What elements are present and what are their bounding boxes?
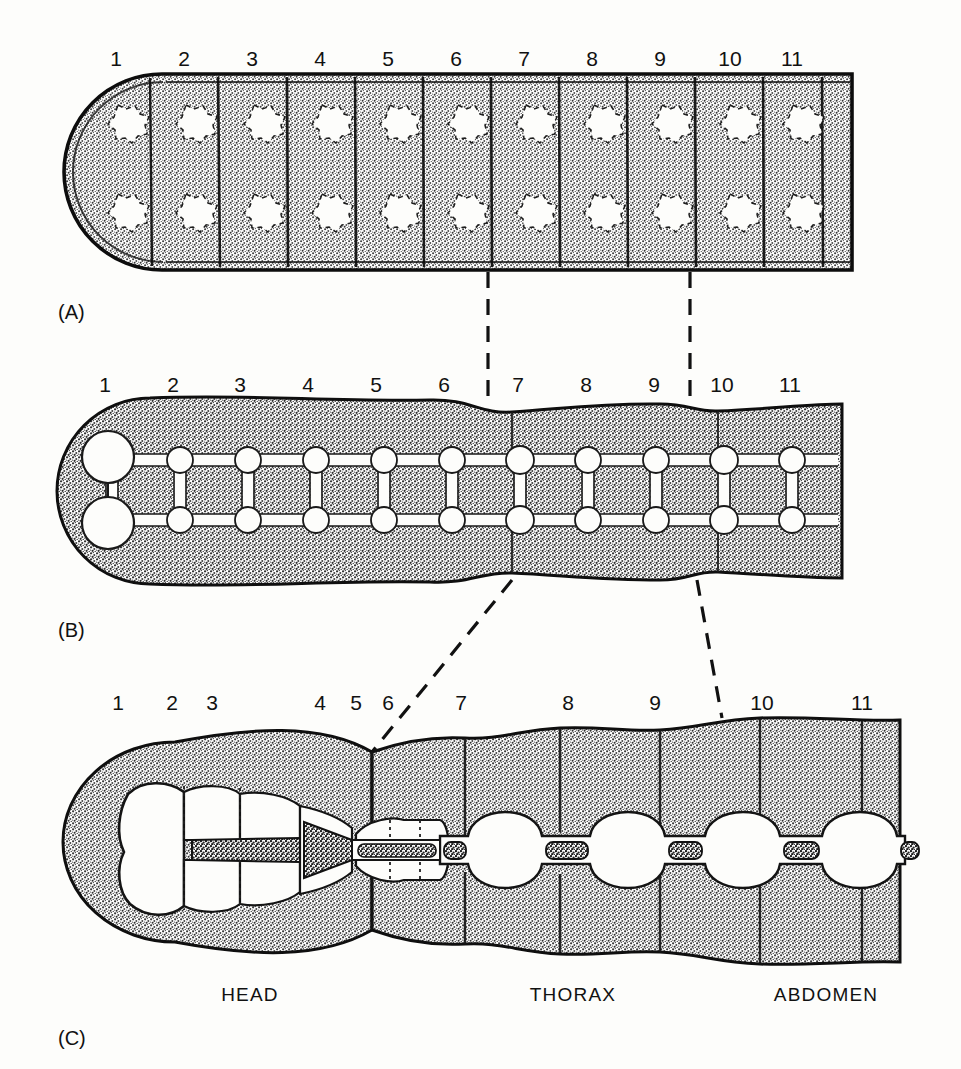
panel-c-drawing — [0, 0, 961, 1069]
panel-c-cervical-connective-core — [358, 844, 436, 857]
panel-c-brain-lobe-lower-2 — [184, 860, 240, 912]
region-label-head: HEAD — [221, 985, 279, 1004]
panel-c-brain-lobe-lower-3 — [240, 860, 300, 905]
region-label-thorax: THORAX — [530, 985, 616, 1004]
panel-c-brain-lobe-upper-3 — [240, 793, 300, 840]
region-label-abdomen: ABDOMEN — [774, 985, 878, 1004]
panel-c-brain-lobe-upper-2 — [184, 786, 240, 840]
panel-c-median-mass — [192, 838, 300, 862]
panel-c-label: (C) — [58, 1028, 86, 1048]
panel-c: 1 2 3 4 5 6 7 8 9 10 11 — [0, 0, 961, 1069]
panel-c-brain-lobe-anterior — [119, 783, 184, 915]
figure-insect-segmentation: 1 2 3 4 5 6 7 8 9 10 11 — [0, 0, 961, 1069]
